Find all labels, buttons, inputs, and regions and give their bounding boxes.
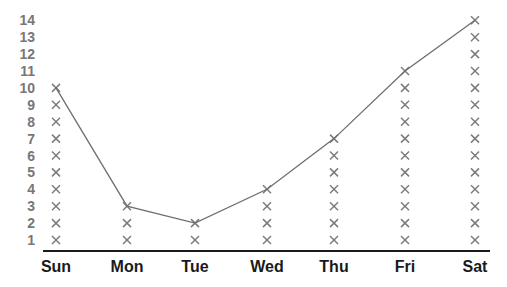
x-marker-icon (263, 219, 271, 227)
x-marker-icon (330, 168, 338, 176)
x-marker-icon (52, 152, 60, 160)
x-marker-icon (471, 50, 479, 58)
x-marker-icon (191, 236, 199, 244)
x-marker-icon (52, 168, 60, 176)
y-tick-label: 2 (27, 215, 35, 231)
x-marker-icon (52, 236, 60, 244)
x-marker-icon (330, 202, 338, 210)
trend-line (56, 20, 475, 223)
x-marker-icon (52, 219, 60, 227)
x-marker-icon (263, 202, 271, 210)
x-marker-icon (330, 219, 338, 227)
y-tick-label: 1 (27, 232, 35, 248)
x-marker-icon (471, 152, 479, 160)
x-tick-label: Fri (395, 258, 415, 275)
x-marker-icon (52, 202, 60, 210)
x-marker-icon (52, 118, 60, 126)
y-tick-label: 9 (27, 97, 35, 113)
x-marker-icon (52, 185, 60, 193)
x-tick-label: Sat (463, 258, 489, 275)
x-marker-icon (401, 202, 409, 210)
x-marker-icon (52, 135, 60, 143)
x-marker-icon (123, 219, 131, 227)
x-marker-icon (401, 236, 409, 244)
x-marker-icon (401, 101, 409, 109)
y-tick-label: 4 (27, 181, 35, 197)
x-axis-tick-labels: SunMonTueWedThuFriSat (41, 258, 488, 275)
y-tick-label: 6 (27, 148, 35, 164)
x-marker-icon (471, 118, 479, 126)
x-markers (52, 16, 479, 244)
y-tick-label: 13 (19, 29, 35, 45)
x-marker-icon (401, 135, 409, 143)
x-marker-icon (471, 135, 479, 143)
y-tick-label: 12 (19, 46, 35, 62)
x-marker-icon (401, 118, 409, 126)
y-tick-label: 11 (20, 63, 35, 79)
y-axis-tick-labels: 1234567891011121314 (19, 12, 35, 248)
y-tick-label: 14 (19, 12, 35, 28)
line-plot-chart: 1234567891011121314 SunMonTueWedThuFriSa… (0, 0, 507, 287)
x-marker-icon (471, 168, 479, 176)
x-marker-icon (471, 33, 479, 41)
x-tick-label: Tue (181, 258, 208, 275)
x-marker-icon (401, 185, 409, 193)
x-marker-icon (52, 101, 60, 109)
x-marker-icon (471, 67, 479, 75)
y-tick-label: 7 (27, 131, 35, 147)
x-marker-icon (330, 185, 338, 193)
x-marker-icon (401, 84, 409, 92)
y-tick-label: 3 (27, 198, 35, 214)
x-tick-label: Mon (111, 258, 144, 275)
x-tick-label: Thu (319, 258, 348, 275)
x-tick-label: Sun (41, 258, 71, 275)
y-tick-label: 8 (27, 114, 35, 130)
x-marker-icon (471, 84, 479, 92)
x-marker-icon (471, 185, 479, 193)
y-tick-label: 5 (27, 164, 35, 180)
x-marker-icon (401, 219, 409, 227)
x-marker-icon (263, 236, 271, 244)
x-tick-label: Wed (250, 258, 283, 275)
x-marker-icon (123, 236, 131, 244)
x-marker-icon (471, 101, 479, 109)
x-marker-icon (471, 236, 479, 244)
x-marker-icon (330, 236, 338, 244)
y-tick-label: 10 (19, 80, 35, 96)
x-marker-icon (471, 219, 479, 227)
x-marker-icon (401, 168, 409, 176)
x-marker-icon (401, 152, 409, 160)
x-marker-icon (471, 202, 479, 210)
x-marker-icon (330, 152, 338, 160)
